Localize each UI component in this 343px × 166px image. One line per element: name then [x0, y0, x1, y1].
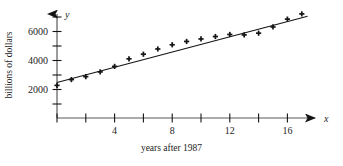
data-point [155, 46, 160, 51]
axes-group [57, 14, 315, 118]
plot-canvas: 2000 4000 6000 4 8 12 16 y x [0, 0, 343, 166]
trend-line-segment [57, 16, 308, 82]
data-point [198, 36, 203, 41]
data-point [213, 34, 218, 39]
x-axis-title: years after 1987 [0, 143, 343, 153]
y-tick-labels: 2000 4000 6000 [28, 26, 48, 95]
y-tick-label-2000: 2000 [28, 84, 48, 95]
data-point [141, 52, 146, 57]
data-point [256, 31, 261, 36]
scatter-plot-figure: billions of dollars [0, 0, 343, 166]
x-tick-label-8: 8 [170, 125, 175, 136]
y-tick-label-4000: 4000 [28, 55, 48, 66]
data-point [170, 42, 175, 47]
x-tick-label-4: 4 [112, 125, 117, 136]
y-axis-variable-label: y [64, 9, 70, 20]
x-tick-labels: 4 8 12 16 [112, 125, 292, 136]
data-point [54, 83, 59, 88]
data-point [299, 11, 304, 16]
x-tick-label-16: 16 [282, 125, 292, 136]
x-axis-variable-label: x [323, 113, 329, 124]
x-tick-label-12: 12 [225, 125, 235, 136]
y-tick-label-6000: 6000 [28, 26, 48, 37]
data-point [184, 39, 189, 44]
data-point [126, 56, 131, 61]
trend-line [57, 16, 308, 82]
